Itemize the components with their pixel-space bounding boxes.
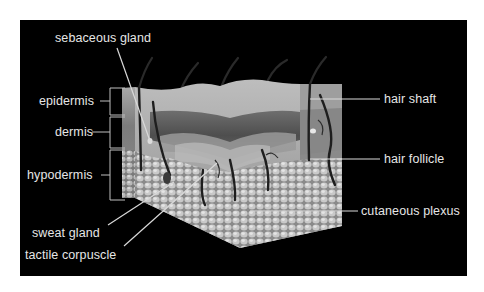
label-hair-follicle: hair follicle <box>384 152 444 166</box>
layer-brackets <box>92 88 125 200</box>
label-dermis: dermis <box>55 125 93 139</box>
label-hair-shaft: hair shaft <box>384 92 436 106</box>
label-sweat-gland: sweat gland <box>32 226 100 240</box>
label-cutaneous-plexus: cutaneous plexus <box>361 204 460 218</box>
label-sebaceous-gland: sebaceous gland <box>55 31 151 45</box>
label-epidermis: epidermis <box>39 94 94 108</box>
label-hypodermis: hypodermis <box>27 168 93 182</box>
label-tactile-corpuscle: tactile corpuscle <box>25 248 116 262</box>
